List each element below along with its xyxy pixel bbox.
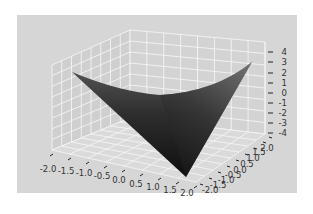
x-tick-label: -1.5 bbox=[58, 166, 75, 176]
z-tick-label: 4 bbox=[282, 47, 287, 57]
z-tick-label: -2 bbox=[279, 108, 287, 118]
x-tick-label: 2.0 bbox=[180, 188, 194, 198]
x-tick-label: 0.5 bbox=[129, 179, 143, 189]
x-tick-label: 0.0 bbox=[112, 175, 126, 185]
z-tick-label: 0 bbox=[282, 88, 287, 98]
z-tick-label: -4 bbox=[279, 128, 287, 138]
x-tick-label: 1.0 bbox=[146, 182, 160, 192]
surface-plot-figure: -2.0 -1.5 -1.0 -0.5 0.0 0.5 1.0 1.5 2.0 … bbox=[0, 0, 313, 214]
y-tick-label: 2.0 bbox=[260, 143, 274, 153]
x-tick-label: -1.0 bbox=[76, 168, 93, 178]
z-tick-label: -1 bbox=[279, 98, 287, 108]
z-tick-label: -3 bbox=[279, 118, 287, 128]
z-tick-label: 1 bbox=[282, 78, 287, 88]
x-tick-label: -0.5 bbox=[94, 171, 111, 181]
x-tick-label: 1.5 bbox=[163, 185, 177, 195]
z-tick-label: 2 bbox=[282, 68, 287, 78]
x-tick-label: -2.0 bbox=[40, 164, 57, 174]
z-tick-label: 3 bbox=[282, 57, 287, 67]
